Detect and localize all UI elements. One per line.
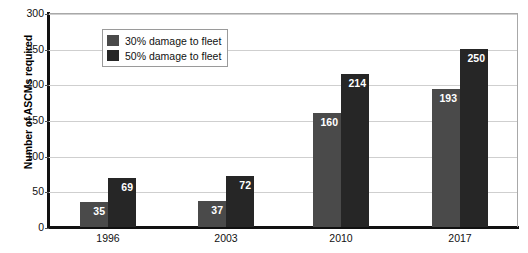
- x-tick-label: 2003: [186, 232, 266, 244]
- y-tick-mark: [45, 121, 49, 122]
- bar[interactable]: 160: [313, 113, 341, 227]
- y-tick-label: 150: [4, 114, 44, 126]
- bar[interactable]: 69: [108, 178, 136, 227]
- bar[interactable]: 37: [198, 201, 226, 227]
- y-tick-mark: [45, 157, 49, 158]
- x-tick-label: 2017: [420, 232, 500, 244]
- bar[interactable]: 35: [80, 202, 108, 227]
- bar-group: 160214: [313, 14, 369, 227]
- chart-legend: 30% damage to fleet 50% damage to fleet: [102, 29, 228, 67]
- bar-value-label: 250: [467, 52, 485, 64]
- legend-label: 30% damage to fleet: [125, 35, 221, 47]
- x-tick-label: 2010: [301, 232, 381, 244]
- y-tick-mark: [45, 14, 49, 15]
- bar[interactable]: 72: [226, 176, 254, 227]
- bar-value-label: 160: [320, 116, 338, 128]
- bar-value-label: 214: [348, 77, 366, 89]
- bar[interactable]: 193: [432, 89, 460, 227]
- bar[interactable]: 214: [341, 74, 369, 227]
- y-tick-label: 300: [4, 7, 44, 19]
- y-tick-mark: [45, 192, 49, 193]
- bar-group: 193250: [432, 14, 488, 227]
- y-tick-mark: [45, 85, 49, 86]
- y-tick-label: 50: [4, 185, 44, 197]
- bar-value-label: 35: [93, 205, 105, 217]
- y-tick-label: 0: [4, 221, 44, 233]
- x-tick-label: 1996: [68, 232, 148, 244]
- y-tick-label: 250: [4, 43, 44, 55]
- legend-swatch-icon: [107, 35, 119, 46]
- legend-item: 50% damage to fleet: [107, 48, 221, 63]
- bar-value-label: 72: [239, 179, 251, 191]
- bar-chart: Number of ASCMs required 356937721602141…: [0, 0, 528, 253]
- bar[interactable]: 250: [460, 49, 488, 227]
- y-tick-label: 200: [4, 78, 44, 90]
- bar-value-label: 37: [211, 204, 223, 216]
- y-tick-mark: [45, 228, 49, 229]
- y-tick-mark: [45, 50, 49, 51]
- bar-value-label: 69: [121, 181, 133, 193]
- bar-value-label: 193: [439, 92, 457, 104]
- y-tick-label: 100: [4, 150, 44, 162]
- legend-label: 50% damage to fleet: [125, 50, 221, 62]
- legend-item: 30% damage to fleet: [107, 33, 221, 48]
- legend-swatch-icon: [107, 50, 119, 61]
